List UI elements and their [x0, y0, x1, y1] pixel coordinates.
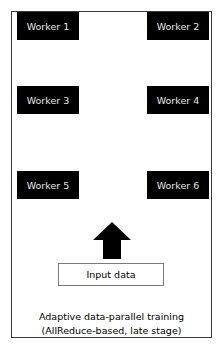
input-data-box: Input data — [58, 263, 164, 286]
worker-6-box: Worker 6 — [147, 171, 209, 199]
caption-line-1: Adaptive data-parallel training — [11, 310, 212, 324]
diagram-caption: Adaptive data-parallel training (AllRedu… — [11, 310, 212, 338]
worker-3-box: Worker 3 — [17, 86, 79, 114]
worker-5-box: Worker 5 — [17, 171, 79, 199]
worker-1-box: Worker 1 — [17, 12, 79, 40]
arrow-up-icon — [93, 222, 131, 259]
worker-4-box: Worker 4 — [147, 86, 209, 114]
caption-line-2: (AllReduce-based, late stage) — [11, 324, 212, 338]
worker-2-box: Worker 2 — [147, 12, 209, 40]
